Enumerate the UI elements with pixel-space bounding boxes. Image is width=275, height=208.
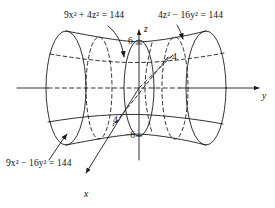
leader-bottom-left (49, 134, 67, 160)
z-axis-label: z (144, 25, 148, 35)
x-tick-upper-label: 4 (172, 53, 177, 63)
x-tick-lower-label: 4 (113, 116, 118, 126)
hyperboloid-figure: 9x² + 4z² = 144 4z² − 16y² = 144 9x² − 1… (0, 0, 275, 208)
z-tick-negative-label: −6 (125, 131, 135, 141)
horizontal-hyperbola-trace-front (48, 114, 223, 124)
equation-label-top-left: 9x² + 4z² = 144 (64, 11, 124, 21)
horizontal-hyperbola-trace (50, 53, 224, 63)
z-tick-positive-label: 6 (128, 37, 133, 47)
figure-canvas (0, 0, 275, 208)
x-axis-label: x (84, 190, 88, 200)
top-silhouette (66, 31, 206, 42)
equation-label-bottom-left: 9x² − 16y² = 144 (6, 159, 72, 169)
y-axis-label: y (262, 92, 266, 102)
z-axis (136, 30, 142, 160)
equation-label-top-right: 4z² − 16y² = 144 (158, 11, 223, 21)
leader-top-left (108, 26, 124, 57)
